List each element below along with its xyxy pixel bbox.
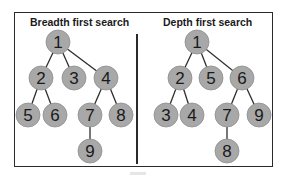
node-label: 4 [101,69,110,88]
node-label: 2 [175,69,184,88]
node-label: 9 [85,142,94,161]
node-label: 7 [85,106,94,125]
dfs-tree: 125634798 [154,30,271,163]
caption-mark [130,172,146,175]
node-label: 9 [254,106,263,125]
node-label: 8 [222,142,231,161]
node-label: 1 [53,33,62,52]
node-label: 2 [36,69,45,88]
node-label: 1 [192,33,201,52]
node-label: 5 [206,69,215,88]
diagram-canvas: Breadth first search Depth first search … [0,0,284,180]
bfs-tree: 123456789 [16,30,133,163]
node-label: 7 [222,106,231,125]
node-label: 4 [187,106,196,125]
node-label: 5 [23,106,32,125]
node-label: 6 [237,69,246,88]
node-label: 8 [116,106,125,125]
node-label: 3 [69,69,78,88]
node-label: 3 [161,106,170,125]
node-label: 6 [50,106,59,125]
tree-graphics: 123456789 125634798 [0,0,284,180]
